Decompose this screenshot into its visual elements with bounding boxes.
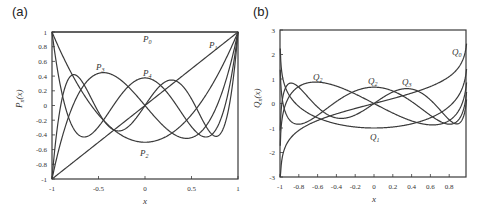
y-tick-label: 0.4 bbox=[38, 73, 47, 81]
curve-label-p2: P2 bbox=[139, 148, 149, 159]
x-axis-label-a: x bbox=[142, 196, 147, 206]
curve-Q0 bbox=[280, 44, 466, 177]
y-axis-label-b: Qn(x) bbox=[252, 89, 263, 109]
y-tick-label: -1 bbox=[269, 125, 275, 133]
y-tick-label: 0 bbox=[272, 100, 276, 108]
x-tick-label: -0.4 bbox=[331, 183, 343, 191]
curve-label-q2b: Q2 bbox=[368, 76, 378, 87]
y-tick-label: 3 bbox=[272, 27, 276, 35]
curve-Q4 bbox=[280, 83, 466, 130]
y-tick-label: 1 bbox=[44, 29, 48, 37]
y-tick-label: -0.6 bbox=[36, 146, 48, 154]
panel-label-b: (b) bbox=[253, 4, 269, 19]
x-tick-label: 0.8 bbox=[445, 183, 454, 191]
y-tick-label: -1 bbox=[41, 176, 47, 184]
y-tick-label: -0.4 bbox=[36, 131, 48, 139]
y-tick-label: 0.6 bbox=[38, 58, 47, 66]
y-tick-label: 0.2 bbox=[38, 87, 47, 95]
y-tick-label: -2 bbox=[269, 149, 275, 157]
x-tick-label: 0.6 bbox=[426, 183, 435, 191]
y-tick-label: -3 bbox=[269, 174, 275, 182]
x-tick-label: 0.4 bbox=[407, 183, 416, 191]
x-tick-label: -1 bbox=[277, 183, 283, 191]
x-tick-label: 0.5 bbox=[187, 185, 196, 193]
chart-panel-a: 10.80.60.40.20-0.2-0.4-0.6-0.8-1 -1-0.50… bbox=[14, 29, 240, 207]
curve-label-q2a: Q2 bbox=[313, 72, 323, 83]
curve-Q1 bbox=[280, 49, 466, 128]
curve-label-p3: P3 bbox=[95, 62, 105, 73]
x-tick-label: 0 bbox=[143, 185, 147, 193]
y-tick-label: 1 bbox=[272, 76, 276, 84]
curves-b bbox=[280, 44, 466, 177]
y-tick-label: -0.2 bbox=[36, 117, 48, 125]
curve-label-p1: P1 bbox=[208, 40, 218, 51]
x-axis-label-b: x bbox=[371, 194, 376, 204]
y-tick-label: 0 bbox=[44, 102, 48, 110]
x-tick-label: -0.6 bbox=[312, 183, 324, 191]
curve-label-q1: Q1 bbox=[370, 132, 380, 143]
x-tick-label: -0.5 bbox=[93, 185, 105, 193]
chart-panel-b: 3210-1-2-3 -1-0.8-0.6-0.4-0.200.20.40.60… bbox=[252, 27, 467, 205]
x-tick-label: -0.2 bbox=[350, 183, 362, 191]
x-tick-label: 1 bbox=[236, 185, 240, 193]
curve-label-q0: Q0 bbox=[452, 47, 462, 58]
y-tick-label: 2 bbox=[272, 51, 276, 59]
x-tick-label: -1 bbox=[49, 185, 55, 193]
curve-label-q3: Q3 bbox=[402, 77, 412, 88]
x-tick-label: -0.8 bbox=[293, 183, 305, 191]
panel-label-a: (a) bbox=[12, 4, 28, 19]
y-axis-label-a: Pn(x) bbox=[14, 90, 25, 110]
x-tick-label: 0.2 bbox=[388, 183, 397, 191]
figure: (a) (b) 10.80.60.40.20-0.2-0.4-0.6-0.8-1… bbox=[0, 0, 483, 210]
y-tick-label: 0.8 bbox=[38, 43, 47, 51]
x-tick-label: 0 bbox=[372, 183, 376, 191]
curve-label-p4: P4 bbox=[142, 68, 152, 79]
y-tick-label: -0.8 bbox=[36, 161, 48, 169]
curve-label-p0: P0 bbox=[142, 34, 152, 45]
